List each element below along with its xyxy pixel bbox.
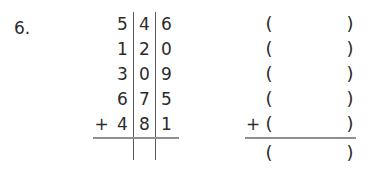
sum-digit-hundreds[interactable]: [112, 141, 133, 165]
addend-plus-sign: +: [93, 112, 110, 136]
sum-rule-left: [93, 137, 179, 139]
table-row: 5 4 6: [93, 12, 179, 36]
digit-hundreds: 6: [112, 87, 133, 111]
digit-tens: 0: [134, 62, 155, 86]
close-paren: ): [344, 87, 356, 111]
digit-hundreds: 1: [112, 37, 133, 61]
table-row: + 4 8 1: [93, 112, 179, 136]
digit-tens: 4: [134, 12, 155, 36]
list-item: ( ): [245, 12, 365, 36]
close-paren: ): [344, 12, 356, 36]
list-item: ( ): [245, 87, 365, 111]
open-paren: (: [263, 112, 275, 136]
numeric-addition-column: 5 4 6 1 2 0 3 0 9 6 7 5 + 4 8 1: [93, 12, 179, 162]
table-row: 3 0 9: [93, 62, 179, 86]
digit-tens: 2: [134, 37, 155, 61]
sum-answer-blank[interactable]: [275, 141, 345, 165]
answer-blank[interactable]: [275, 62, 345, 86]
addend-plus-sign: [93, 62, 110, 86]
answer-blank[interactable]: [275, 87, 345, 111]
addend-plus-sign: [245, 12, 261, 36]
digit-hundreds: 3: [112, 62, 133, 86]
close-paren: ): [344, 141, 356, 165]
list-item: ( ): [245, 37, 365, 61]
sum-digit-tens[interactable]: [134, 141, 155, 165]
answer-blank[interactable]: [275, 37, 345, 61]
open-paren: (: [263, 62, 275, 86]
addend-plus-sign: [245, 62, 261, 86]
addend-plus-sign: [245, 37, 261, 61]
close-paren: ): [344, 37, 356, 61]
addend-plus-sign: [93, 12, 110, 36]
open-paren: (: [263, 141, 275, 165]
parenthesis-answer-column: ( ) ( ) ( ) ( ) + ( ): [245, 12, 365, 167]
digit-hundreds: 4: [112, 112, 133, 136]
open-paren: (: [263, 12, 275, 36]
digit-ones: 1: [156, 112, 177, 136]
table-row: 6 7 5: [93, 87, 179, 111]
addend-plus-sign: [93, 37, 110, 61]
open-paren: (: [263, 37, 275, 61]
worksheet-problem-page: 6. 5 4 6 1 2 0 3 0 9 6 7 5: [0, 0, 376, 174]
digit-ones: 9: [156, 62, 177, 86]
addend-plus-sign: +: [245, 112, 261, 136]
digit-tens: 8: [134, 112, 155, 136]
close-paren: ): [344, 62, 356, 86]
list-item: ( ): [245, 62, 365, 86]
close-paren: ): [344, 112, 356, 136]
answer-blank[interactable]: [275, 12, 345, 36]
sum-rule-right: [245, 137, 356, 139]
digit-ones: 6: [156, 12, 177, 36]
sum-digit-ones[interactable]: [156, 141, 177, 165]
problem-number: 6.: [14, 18, 30, 38]
open-paren: (: [263, 87, 275, 111]
list-item: + ( ): [245, 112, 365, 136]
answer-blank[interactable]: [275, 112, 345, 136]
digit-tens: 7: [134, 87, 155, 111]
numeric-sum-row[interactable]: [93, 141, 179, 165]
digit-ones: 5: [156, 87, 177, 111]
paren-sum-row: ( ): [245, 141, 365, 165]
addend-plus-sign: [93, 87, 110, 111]
digit-ones: 0: [156, 37, 177, 61]
table-row: 1 2 0: [93, 37, 179, 61]
addend-plus-sign: [245, 87, 261, 111]
digit-hundreds: 5: [112, 12, 133, 36]
